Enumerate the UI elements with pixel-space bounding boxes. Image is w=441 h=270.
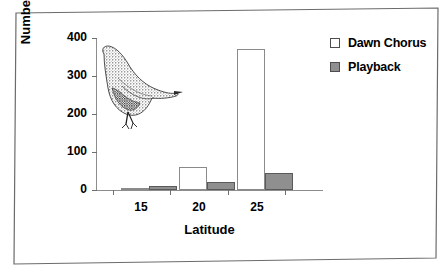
y-axis-title: Number of Songs xyxy=(18,0,33,50)
y-tick-300: 300 xyxy=(92,76,97,77)
x-axis-title: Latitude xyxy=(96,222,323,237)
legend-item-dawn-chorus[interactable]: Dawn Chorus xyxy=(330,36,426,50)
bar-dawn-chorus-20 xyxy=(179,167,207,190)
x-tick-label-20: 20 xyxy=(192,200,205,214)
y-tick-100: 100 xyxy=(92,152,97,153)
legend-label-playback: Playback xyxy=(348,60,401,74)
open-square-icon xyxy=(330,38,340,48)
y-tick-label-200: 200 xyxy=(67,106,87,120)
bar-playback-15 xyxy=(149,186,177,190)
bar-playback-20 xyxy=(207,182,235,190)
plot-area: 400 300 200 100 0 15 20 25 xyxy=(96,38,323,190)
y-tick-label-0: 0 xyxy=(80,182,87,196)
x-tick-right xyxy=(285,190,286,195)
x-tick-2 xyxy=(228,190,229,195)
y-tick-label-300: 300 xyxy=(67,68,87,82)
x-tick-left xyxy=(113,190,114,195)
x-tick-1 xyxy=(170,190,171,195)
legend: Dawn Chorus Playback xyxy=(330,36,426,84)
y-tick-0: 0 xyxy=(92,190,97,191)
x-tick-label-15: 15 xyxy=(134,200,147,214)
filled-square-icon xyxy=(330,62,340,72)
bar-dawn-chorus-25 xyxy=(237,49,265,190)
figure-root: Number of Songs 400 300 200 100 0 15 20 … xyxy=(0,0,441,270)
y-tick-200: 200 xyxy=(92,114,97,115)
y-tick-400: 400 xyxy=(92,38,97,39)
bar-playback-25 xyxy=(265,173,293,190)
x-axis-line xyxy=(96,190,323,191)
y-tick-label-100: 100 xyxy=(67,144,87,158)
y-tick-label-400: 400 xyxy=(67,30,87,44)
x-tick-label-25: 25 xyxy=(250,200,263,214)
legend-item-playback[interactable]: Playback xyxy=(330,60,426,74)
legend-label-dawn-chorus: Dawn Chorus xyxy=(348,36,426,50)
bar-dawn-chorus-15 xyxy=(121,188,149,190)
